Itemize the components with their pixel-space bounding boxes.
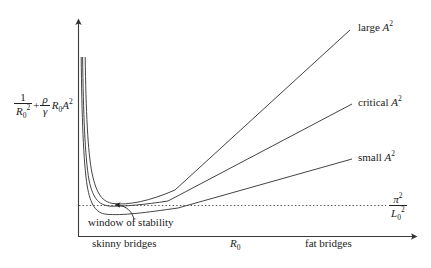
y-axis-frac2-denominator: γ: [40, 105, 49, 117]
x-axis-label: R0: [230, 238, 240, 252]
x-axis-right-region-label: fat bridges: [305, 238, 352, 250]
window-of-stability-label: window of stability: [88, 217, 174, 229]
curve-label-critical-exponent: 2: [398, 94, 402, 103]
y-axis-second-fraction: ρ γ: [40, 94, 49, 117]
x-axis-left-region-label: skinny bridges: [92, 238, 156, 250]
x-axis-subscript: 0: [237, 243, 241, 252]
curve-small-a2: [81, 57, 352, 215]
y-axis-frac1-numerator: 1: [14, 92, 32, 103]
curve-label-critical-a2: critical A2: [358, 95, 402, 108]
curve-label-small-exponent: 2: [391, 149, 395, 158]
y-axis-frac1-denominator: R02: [14, 103, 32, 119]
stability-diagram-figure: 1 R02 + ρ γ R0A2 π2 L02 large A2 critica…: [0, 0, 431, 268]
pi-label-numerator: π2: [389, 192, 407, 205]
curve-label-large-text: large: [358, 21, 380, 33]
pi-squared-over-l0-squared-fraction: π2 L02: [389, 192, 407, 221]
curve-label-critical-text: critical: [358, 96, 389, 108]
reference-line-label: π2 L02: [389, 192, 407, 221]
plot-canvas: [0, 0, 431, 268]
curve-label-small-text: small: [358, 151, 382, 163]
y-axis-first-fraction: 1 R02: [14, 92, 32, 119]
y-axis-label-tail: R0A2: [50, 98, 73, 114]
curve-large-a2: [85, 30, 350, 204]
pi-label-denominator: L02: [389, 205, 407, 221]
y-axis-label: 1 R02 + ρ γ R0A2: [14, 92, 73, 119]
y-axis-plus-operator: +: [32, 100, 40, 112]
curve-label-small-a2: small A2: [358, 150, 395, 163]
y-axis-frac2-numerator: ρ: [40, 94, 49, 105]
curve-label-large-exponent: 2: [389, 19, 393, 28]
curve-critical-a2: [83, 57, 352, 206]
x-axis-symbol: R: [230, 237, 237, 249]
curve-label-large-a2: large A2: [358, 20, 393, 33]
